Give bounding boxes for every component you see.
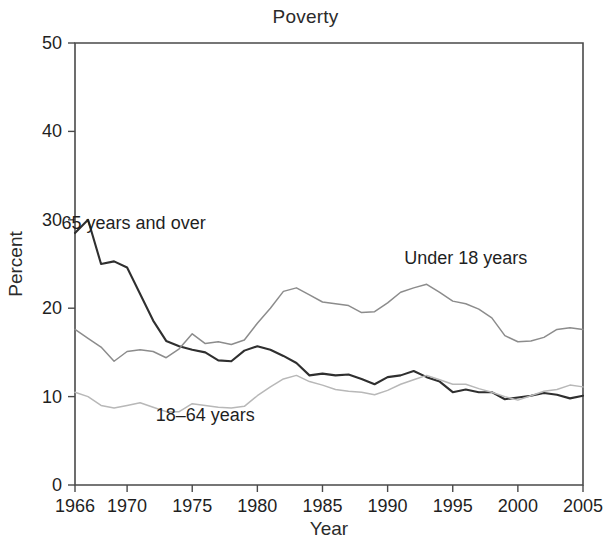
x-tick-label: 2000: [498, 496, 538, 516]
x-tick-label: 1980: [237, 496, 277, 516]
y-axis-title: Percent: [5, 231, 26, 297]
poverty-chart-figure: Poverty 19661970197519801985199019952000…: [0, 0, 611, 556]
y-tick-label: 20: [42, 298, 62, 318]
y-tick-label: 30: [42, 210, 62, 230]
series-annotation-label: 18–64 years: [156, 405, 255, 425]
x-tick-label: 1966: [55, 496, 95, 516]
y-tick-label: 10: [42, 387, 62, 407]
x-axis-title: Year: [310, 518, 349, 539]
x-tick-label: 1990: [368, 496, 408, 516]
x-tick-label: 2005: [563, 496, 603, 516]
series-line: [75, 375, 583, 411]
series-line: [75, 284, 583, 361]
y-tick-label: 50: [42, 33, 62, 53]
x-tick-label: 1985: [302, 496, 342, 516]
x-tick-label: 1975: [172, 496, 212, 516]
y-tick-labels-group: 01020304050: [42, 33, 62, 495]
series-annotations-group: 65 years and overUnder 18 years18–64 yea…: [62, 213, 528, 426]
y-tick-label: 40: [42, 121, 62, 141]
series-annotation-label: 65 years and over: [62, 213, 206, 233]
chart-plot-area: 196619701975198019851990199520002005 010…: [0, 0, 611, 556]
series-annotation-label: Under 18 years: [404, 248, 527, 268]
x-tick-label: 1970: [107, 496, 147, 516]
x-tick-label: 1995: [433, 496, 473, 516]
series-line: [75, 220, 583, 399]
y-tick-label: 0: [52, 475, 62, 495]
x-tick-labels-group: 196619701975198019851990199520002005: [55, 496, 603, 516]
